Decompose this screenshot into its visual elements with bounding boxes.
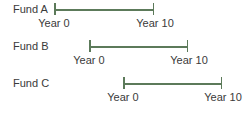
fund-c-timeline [123,83,222,84]
fund-c-start-tick [123,77,125,89]
fund-a-start-label: Year 0 [38,17,69,29]
fund-c-end-tick [221,77,223,89]
fund-a-end-tick [153,3,155,15]
fund-a-start-tick [54,3,56,15]
fund-b-start-label: Year 0 [73,54,104,66]
fund-b-start-tick [89,40,91,52]
fund-b-timeline-bar [89,46,188,48]
fund-b-timeline [89,46,188,47]
fund-c-timeline-bar [123,83,222,85]
fund-a-end-label: Year 10 [136,17,174,29]
fund-a-timeline-bar [54,9,154,11]
fund-a-label: Fund A [13,3,48,15]
fund-a-timeline [54,9,154,10]
fund-b-label: Fund B [13,40,48,52]
fund-b-end-label: Year 10 [170,54,208,66]
fund-c-end-label: Year 10 [204,91,242,103]
fund-c-label: Fund C [13,77,49,89]
fund-b-end-tick [187,40,189,52]
fund-c-start-label: Year 0 [107,91,138,103]
